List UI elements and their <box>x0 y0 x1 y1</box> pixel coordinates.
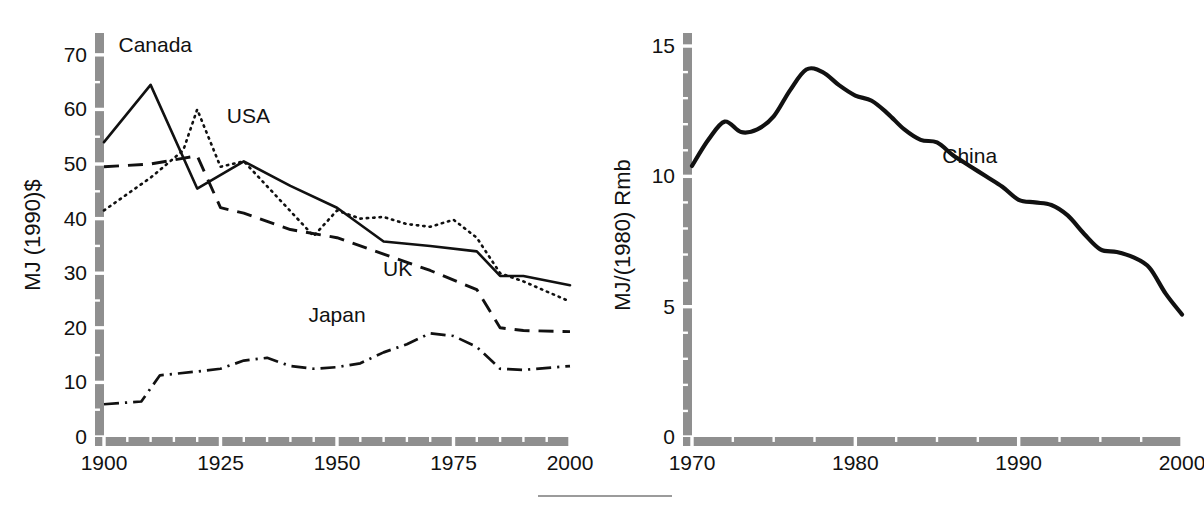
x-axis-band <box>95 437 570 446</box>
series-label-china: China <box>942 144 997 167</box>
series-label-uk: UK <box>383 257 412 280</box>
x-axis <box>683 437 1182 446</box>
y-axis-title: MJ/(1980) Rmb <box>610 159 635 311</box>
y-tick-label: 70 <box>64 43 87 66</box>
y-tick-label: 15 <box>652 34 675 57</box>
y-axis <box>683 33 692 437</box>
y-tick-label: 40 <box>64 207 87 230</box>
series-line-canada <box>104 85 570 285</box>
x-tick-label: 1970 <box>669 451 716 474</box>
y-axis-band <box>95 33 104 437</box>
series-label-usa: USA <box>227 104 270 127</box>
figure-root: 01020304050607019001925195019752000MJ (1… <box>0 0 1204 517</box>
x-tick-label: 1900 <box>81 451 128 474</box>
y-tick-label: 30 <box>64 261 87 284</box>
series-line-china <box>692 68 1182 314</box>
y-tick-label: 0 <box>663 425 675 448</box>
series-line-japan <box>104 333 570 404</box>
y-tick-label: 50 <box>64 152 87 175</box>
chart-canvas: 01020304050607019001925195019752000MJ (1… <box>0 0 1204 517</box>
y-axis <box>95 33 104 437</box>
y-tick-label: 20 <box>64 316 87 339</box>
series-label-canada: Canada <box>118 33 192 56</box>
series-label-japan: Japan <box>308 303 365 326</box>
x-tick-label: 1925 <box>197 451 244 474</box>
y-tick-label: 10 <box>652 164 675 187</box>
y-tick-label: 10 <box>64 370 87 393</box>
x-tick-label: 1980 <box>832 451 879 474</box>
y-tick-label: 0 <box>75 425 87 448</box>
y-axis-title: MJ (1990)$ <box>20 179 45 290</box>
right-chart-china-energy-intensity: 0510151970198019902000MJ/(1980) RmbChina <box>610 33 1204 474</box>
x-axis-band <box>683 437 1182 446</box>
y-tick-label: 60 <box>64 97 87 120</box>
x-axis <box>95 437 570 446</box>
y-axis-band <box>683 33 692 437</box>
y-tick-label: 5 <box>663 295 675 318</box>
x-tick-label: 2000 <box>547 451 594 474</box>
x-tick-label: 2000 <box>1159 451 1204 474</box>
x-tick-label: 1990 <box>995 451 1042 474</box>
left-chart-energy-intensity: 01020304050607019001925195019752000MJ (1… <box>20 33 593 474</box>
x-tick-label: 1950 <box>314 451 361 474</box>
x-tick-label: 1975 <box>430 451 477 474</box>
